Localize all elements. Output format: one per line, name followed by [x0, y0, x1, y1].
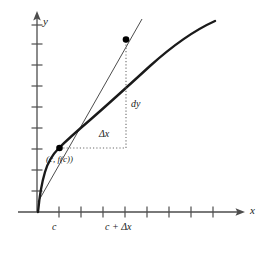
- delta-x-label: Δx: [99, 129, 109, 139]
- differential-figure: y x c c + Δx Δx dy (c, f(c)): [0, 0, 268, 254]
- point-of-tangency-label: (c, f(c)): [46, 155, 73, 164]
- figure-canvas: [0, 0, 268, 254]
- x-tick-label-c: c: [52, 222, 56, 232]
- point-of-tangency-marker: [56, 145, 63, 152]
- axes-group: [18, 11, 245, 218]
- function-curve: [38, 21, 215, 212]
- annotation-dotted-lines: [60, 40, 126, 148]
- x-axis-label: x: [250, 205, 255, 216]
- x-tick-label-c-plus-delta-x: c + Δx: [105, 222, 132, 232]
- dy-label: dy: [131, 99, 140, 109]
- tangent-point-upper-marker: [123, 36, 130, 43]
- y-axis-label: y: [43, 16, 48, 27]
